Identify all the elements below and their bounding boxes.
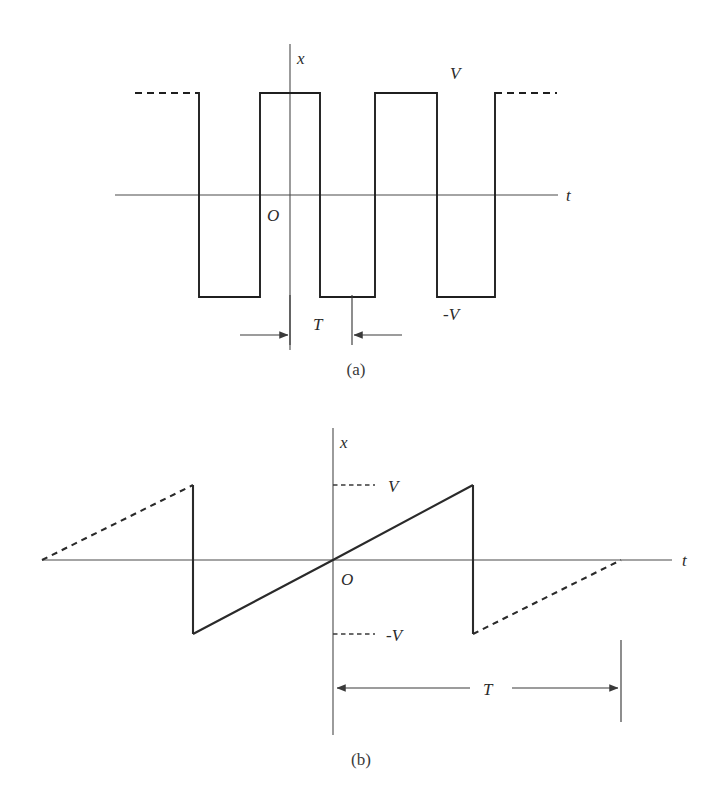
panel-a-period-label: T [313,315,324,334]
panel-b-right-dashed-ramp [473,560,621,634]
panel-b-t-axis-label: t [682,551,688,570]
waveform-figure-svg: x t O V -V T (a) [0,0,722,789]
panel-a-square-wave: x t O V -V T (a) [115,44,572,379]
panel-b-sawtooth-wave: x t O V -V T (b) [42,428,688,769]
panel-b-origin-label: O [341,570,353,589]
panel-a-origin-label: O [267,206,279,225]
panel-b-neg-amplitude-label: -V [386,626,405,645]
panel-b-caption: (b) [351,750,371,769]
panel-b-period-label: T [483,680,494,699]
panel-b-amplitude-label: V [388,477,401,496]
panel-a-caption: (a) [347,360,366,379]
panel-a-neg-amplitude-label: -V [443,305,462,324]
panel-a-x-axis-label: x [296,49,305,68]
figure-root: x t O V -V T (a) [0,0,722,789]
panel-a-amplitude-label: V [450,64,463,83]
panel-b-x-axis-label: x [339,433,348,452]
panel-a-t-axis-label: t [566,186,572,205]
panel-b-left-dashed-ramp [42,485,193,560]
